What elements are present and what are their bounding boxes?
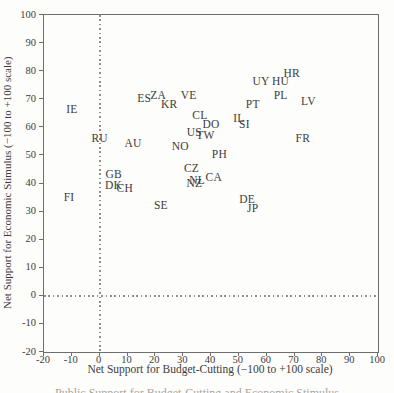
- data-point-label-hr: HR: [284, 68, 300, 80]
- data-point-label-ie: IE: [66, 105, 77, 117]
- data-point-label-pl: PL: [274, 91, 288, 103]
- y-axis-tick: [39, 211, 43, 212]
- data-point-label-se: SE: [154, 200, 168, 212]
- data-point-label-ca: CA: [206, 172, 222, 184]
- y-axis-tick: [39, 154, 43, 155]
- data-point-label-pt: PT: [246, 99, 260, 111]
- data-point-label-ve: VE: [181, 91, 197, 103]
- y-axis-tick: [39, 351, 43, 352]
- y-axis-tick-label: 40: [0, 177, 36, 190]
- y-axis-tick-label: 80: [0, 64, 36, 77]
- y-axis-tick: [39, 183, 43, 184]
- y-axis-tick: [39, 267, 43, 268]
- y-axis-tick: [39, 239, 43, 240]
- data-point-label-jp: JP: [247, 203, 258, 215]
- figure-page: Net Support for Economic Stimulus (−100 …: [0, 0, 394, 393]
- y-axis-tick: [39, 98, 43, 99]
- data-point-label-lv: LV: [301, 96, 316, 108]
- y-axis-tick-label: 10: [0, 261, 36, 274]
- data-point-label-ch: CH: [117, 183, 133, 195]
- reference-line-vertical: [99, 15, 101, 352]
- data-point-label-fi: FI: [64, 192, 75, 204]
- data-point-label-si: SI: [239, 119, 250, 131]
- data-point-label-uy: UY: [253, 77, 270, 89]
- figure-caption-partial: Public Support for Budget-Cutting and Ec…: [0, 386, 394, 393]
- y-axis-tick: [39, 323, 43, 324]
- data-point-label-kr: KR: [161, 99, 177, 111]
- y-axis-tick-label: -20: [0, 345, 36, 358]
- y-axis-tick-label: 0: [0, 289, 36, 302]
- data-point-label-do: DO: [202, 119, 219, 131]
- y-axis-tick-label: 30: [0, 205, 36, 218]
- data-point-label-au: AU: [125, 138, 142, 150]
- y-axis-tick-label: -10: [0, 317, 36, 330]
- y-axis-tick-label: 60: [0, 121, 36, 134]
- y-axis-tick-label: 100: [0, 8, 36, 21]
- data-point-label-ru: RU: [91, 133, 107, 145]
- y-axis-tick: [39, 70, 43, 71]
- reference-line-horizontal: [44, 295, 378, 297]
- y-axis-tick: [39, 14, 43, 15]
- data-point-label-fr: FR: [296, 133, 310, 145]
- plot-area: IEFIRUGBDKCHAUESZASEKRNOVECZUSNZNLCLTWDO…: [43, 14, 379, 353]
- y-axis-tick: [39, 126, 43, 127]
- y-axis-tick-label: 50: [0, 149, 36, 162]
- data-point-label-nl: NL: [189, 175, 205, 187]
- y-axis-tick: [39, 295, 43, 296]
- x-axis-title: Net Support for Budget-Cutting (−100 to …: [43, 363, 377, 375]
- y-axis-tick-label: 70: [0, 92, 36, 105]
- data-point-label-no: NO: [172, 141, 189, 153]
- data-point-label-ph: PH: [212, 150, 227, 162]
- data-point-label-tw: TW: [196, 130, 214, 142]
- data-point-label-es: ES: [137, 94, 151, 106]
- y-axis-tick-label: 90: [0, 36, 36, 49]
- y-axis-tick: [39, 42, 43, 43]
- y-axis-tick-label: 20: [0, 233, 36, 246]
